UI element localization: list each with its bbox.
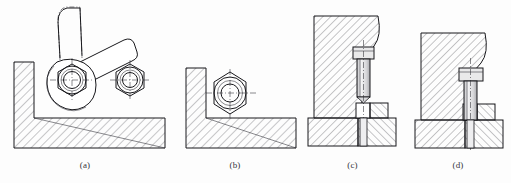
panel-a: (a) xyxy=(0,0,170,183)
panel-d-caption: (d) xyxy=(405,160,511,170)
panel-b-drawing xyxy=(170,0,300,160)
hex-nut xyxy=(206,69,256,118)
panel-d-drawing xyxy=(405,0,511,160)
panel-c-caption: (c) xyxy=(300,160,405,170)
panel-c-drawing xyxy=(300,0,405,160)
base-plate xyxy=(308,118,396,146)
figure-root: (a) (b) xyxy=(0,0,511,183)
clamp-hub-nut xyxy=(47,58,96,111)
panel-a-drawing xyxy=(0,0,170,160)
panel-b: (b) xyxy=(170,0,300,183)
panel-c: (c) xyxy=(300,0,405,183)
clamp-pad xyxy=(356,103,388,118)
panel-b-caption: (b) xyxy=(170,160,300,170)
panel-a-caption: (a) xyxy=(0,160,170,170)
base-plate xyxy=(415,120,503,148)
panel-d: (d) xyxy=(405,0,511,183)
handle-phantom-outline xyxy=(58,7,82,60)
handle-shaft xyxy=(58,8,82,58)
l-bracket xyxy=(186,68,296,148)
